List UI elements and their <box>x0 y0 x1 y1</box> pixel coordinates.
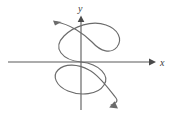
figure-background <box>0 0 175 120</box>
math-figure: x y <box>0 0 175 120</box>
coordinate-plane-svg: x y <box>0 0 175 120</box>
x-axis-label: x <box>159 57 165 68</box>
y-axis-label: y <box>77 3 83 14</box>
